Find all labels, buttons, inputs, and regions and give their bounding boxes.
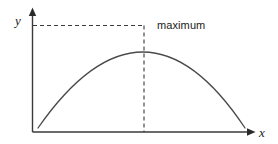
maximum-annotation-label: maximum	[157, 20, 205, 31]
graph-canvas	[0, 0, 278, 144]
y-axis-arrowhead-icon	[29, 8, 36, 17]
parabola-maximum-figure: y x maximum	[0, 0, 278, 144]
y-axis-label: y	[15, 14, 21, 27]
x-axis-arrowhead-icon	[247, 128, 256, 136]
y-axis	[29, 8, 36, 133]
x-axis-label: x	[259, 126, 265, 139]
parabola-curve	[38, 52, 245, 128]
